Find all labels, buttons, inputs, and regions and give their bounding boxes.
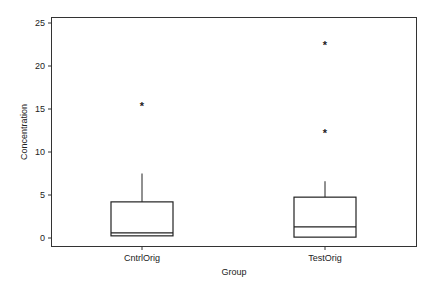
y-tick-label: 0 [40,233,45,243]
x-tick-label: TestOrig [308,253,342,263]
plot-frame [52,18,417,247]
y-axis-label: Concentration [19,104,29,160]
box-TestOrig: ** [294,39,356,238]
y-tick-label: 5 [40,190,45,200]
outlier-marker: * [323,127,328,139]
box-plot-chart: 0510152025 CntrlOrigTestOrig *** Concent… [0,0,434,294]
box-CntrlOrig: * [111,100,173,236]
x-axis-label: Group [221,267,246,277]
y-axis: 0510152025 [35,18,52,243]
outlier-marker: * [323,39,328,51]
boxes: *** [111,39,356,238]
x-axis: CntrlOrigTestOrig [124,247,342,264]
y-tick-label: 15 [35,104,45,114]
iqr-box [294,197,356,237]
y-tick-label: 25 [35,18,45,28]
y-tick-label: 20 [35,61,45,71]
outlier-marker: * [140,100,145,112]
iqr-box [111,202,173,236]
y-tick-label: 10 [35,147,45,157]
x-tick-label: CntrlOrig [124,253,160,263]
